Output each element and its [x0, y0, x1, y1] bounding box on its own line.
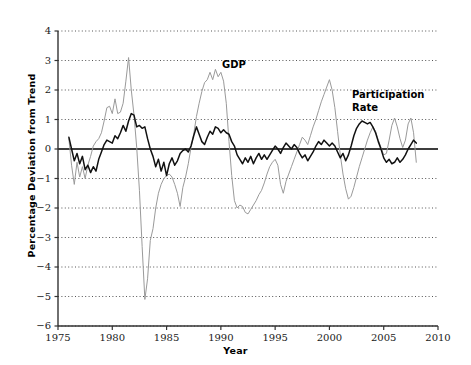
svg-text:−1: −1	[36, 173, 51, 184]
svg-text:0: 0	[45, 143, 51, 154]
svg-text:3: 3	[45, 55, 51, 66]
svg-text:−3: −3	[36, 232, 51, 243]
svg-text:1975: 1975	[45, 332, 70, 343]
svg-text:2000: 2000	[317, 332, 342, 343]
series-label-gdp: GDP	[222, 58, 246, 71]
svg-text:2005: 2005	[371, 332, 396, 343]
svg-text:2010: 2010	[425, 332, 450, 343]
svg-text:−5: −5	[36, 291, 51, 302]
y-axis-tick-labels: 43210−1−2−3−4−5−6	[36, 25, 51, 331]
chart-figure: 43210−1−2−3−4−5−6 1975198019851990199520…	[0, 0, 471, 365]
y-axis-title: Percentage Deviation from Trend	[26, 51, 37, 281]
axis-ticks	[55, 31, 439, 330]
gridlines	[58, 31, 438, 326]
svg-text:−4: −4	[36, 261, 51, 272]
svg-text:2: 2	[45, 84, 51, 95]
svg-text:−6: −6	[36, 320, 51, 331]
x-axis-tick-labels: 19751980198519901995200020052010	[45, 332, 450, 343]
svg-text:1: 1	[45, 114, 51, 125]
svg-text:1980: 1980	[100, 332, 125, 343]
svg-text:4: 4	[45, 25, 51, 36]
series-label-participation-text: Participation Rate	[352, 89, 424, 113]
svg-text:1995: 1995	[262, 332, 287, 343]
chart-plot-area: 43210−1−2−3−4−5−6 1975198019851990199520…	[0, 0, 471, 365]
svg-text:1990: 1990	[208, 332, 233, 343]
x-axis-title: Year	[0, 345, 471, 356]
svg-text:−2: −2	[36, 202, 51, 213]
svg-text:1985: 1985	[154, 332, 179, 343]
series-label-participation-rate: Participation Rate	[352, 88, 452, 114]
